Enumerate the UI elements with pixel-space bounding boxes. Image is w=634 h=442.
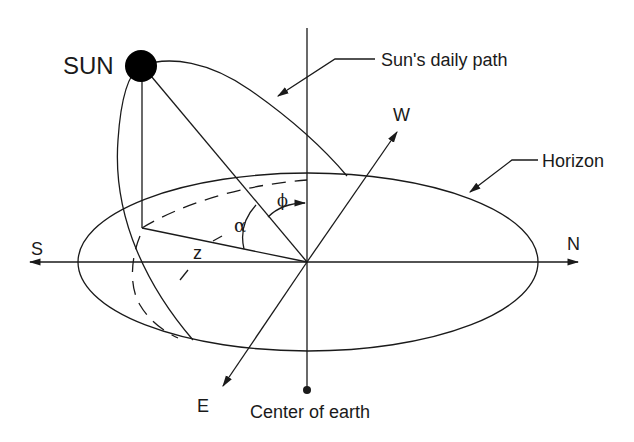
horizon-label: Horizon — [542, 151, 604, 171]
horizon-leader — [470, 160, 538, 192]
sun-icon — [125, 50, 157, 82]
east-label: E — [197, 396, 209, 416]
center-of-earth-label: Center of earth — [250, 402, 370, 422]
altitude-angle-tick — [213, 236, 222, 241]
south-label: S — [31, 239, 43, 259]
zenith-angle-label: z — [193, 243, 202, 263]
altitude-angle-label: α — [234, 215, 246, 236]
east-axis — [223, 262, 307, 386]
west-label: W — [393, 105, 410, 125]
sun-path-label: Sun's daily path — [381, 50, 508, 70]
sun-daily-path — [117, 61, 347, 340]
sun-path-leader — [278, 59, 375, 96]
west-axis — [307, 132, 397, 262]
center-of-earth-dot — [303, 386, 311, 394]
azimuth-angle-label: ϕ — [277, 191, 288, 210]
sun-label: SUN — [63, 52, 114, 79]
zenith-angle-tick — [180, 270, 188, 280]
sun-position-diagram: SUN Sun's daily path Horizon W N S E Cen… — [0, 0, 634, 442]
north-label: N — [567, 234, 580, 254]
